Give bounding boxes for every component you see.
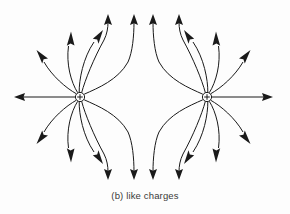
arrowhead-left-nnw	[93, 30, 103, 44]
field-line-right-sse	[193, 102, 208, 152]
arrowhead-right-ne	[213, 32, 221, 46]
arrowhead-left-sw	[67, 148, 75, 162]
field-line-left-nnw	[79, 42, 94, 92]
field-line-left-inner-n2	[84, 22, 134, 94]
arrowhead-left-ssw	[93, 150, 103, 164]
field-line-canvas	[0, 0, 290, 214]
field-line-right-nne	[193, 42, 208, 92]
field-line-right-se	[209, 101, 219, 148]
field-line-left-ssw	[79, 102, 94, 152]
arrowhead-right-east	[262, 93, 273, 101]
field-line-right-inner-s2	[153, 100, 203, 172]
field-line-left-sw	[68, 101, 78, 148]
arrowhead-left-wsw	[37, 130, 49, 144]
arrowhead-right-nne	[184, 30, 194, 44]
field-line-left-inner-s2	[84, 100, 134, 172]
right-positive-charge	[202, 92, 211, 101]
arrowhead-left-west	[14, 93, 25, 101]
field-line-figure: (b) like charges	[0, 0, 290, 214]
arrowhead-right-ese	[239, 130, 251, 144]
arrowhead-right-ene	[239, 50, 251, 64]
field-line-right-ne	[209, 46, 219, 93]
arrowhead-left-nw	[67, 32, 75, 46]
arrowhead-right-sse	[184, 150, 194, 164]
field-line-right-inner-n2	[153, 22, 203, 94]
left-positive-charge	[75, 92, 84, 101]
arrowhead-left-wnw	[37, 50, 49, 64]
arrowhead-right-se	[213, 148, 221, 162]
figure-caption: (b) like charges	[0, 190, 290, 201]
field-line-left-nw	[68, 46, 78, 93]
